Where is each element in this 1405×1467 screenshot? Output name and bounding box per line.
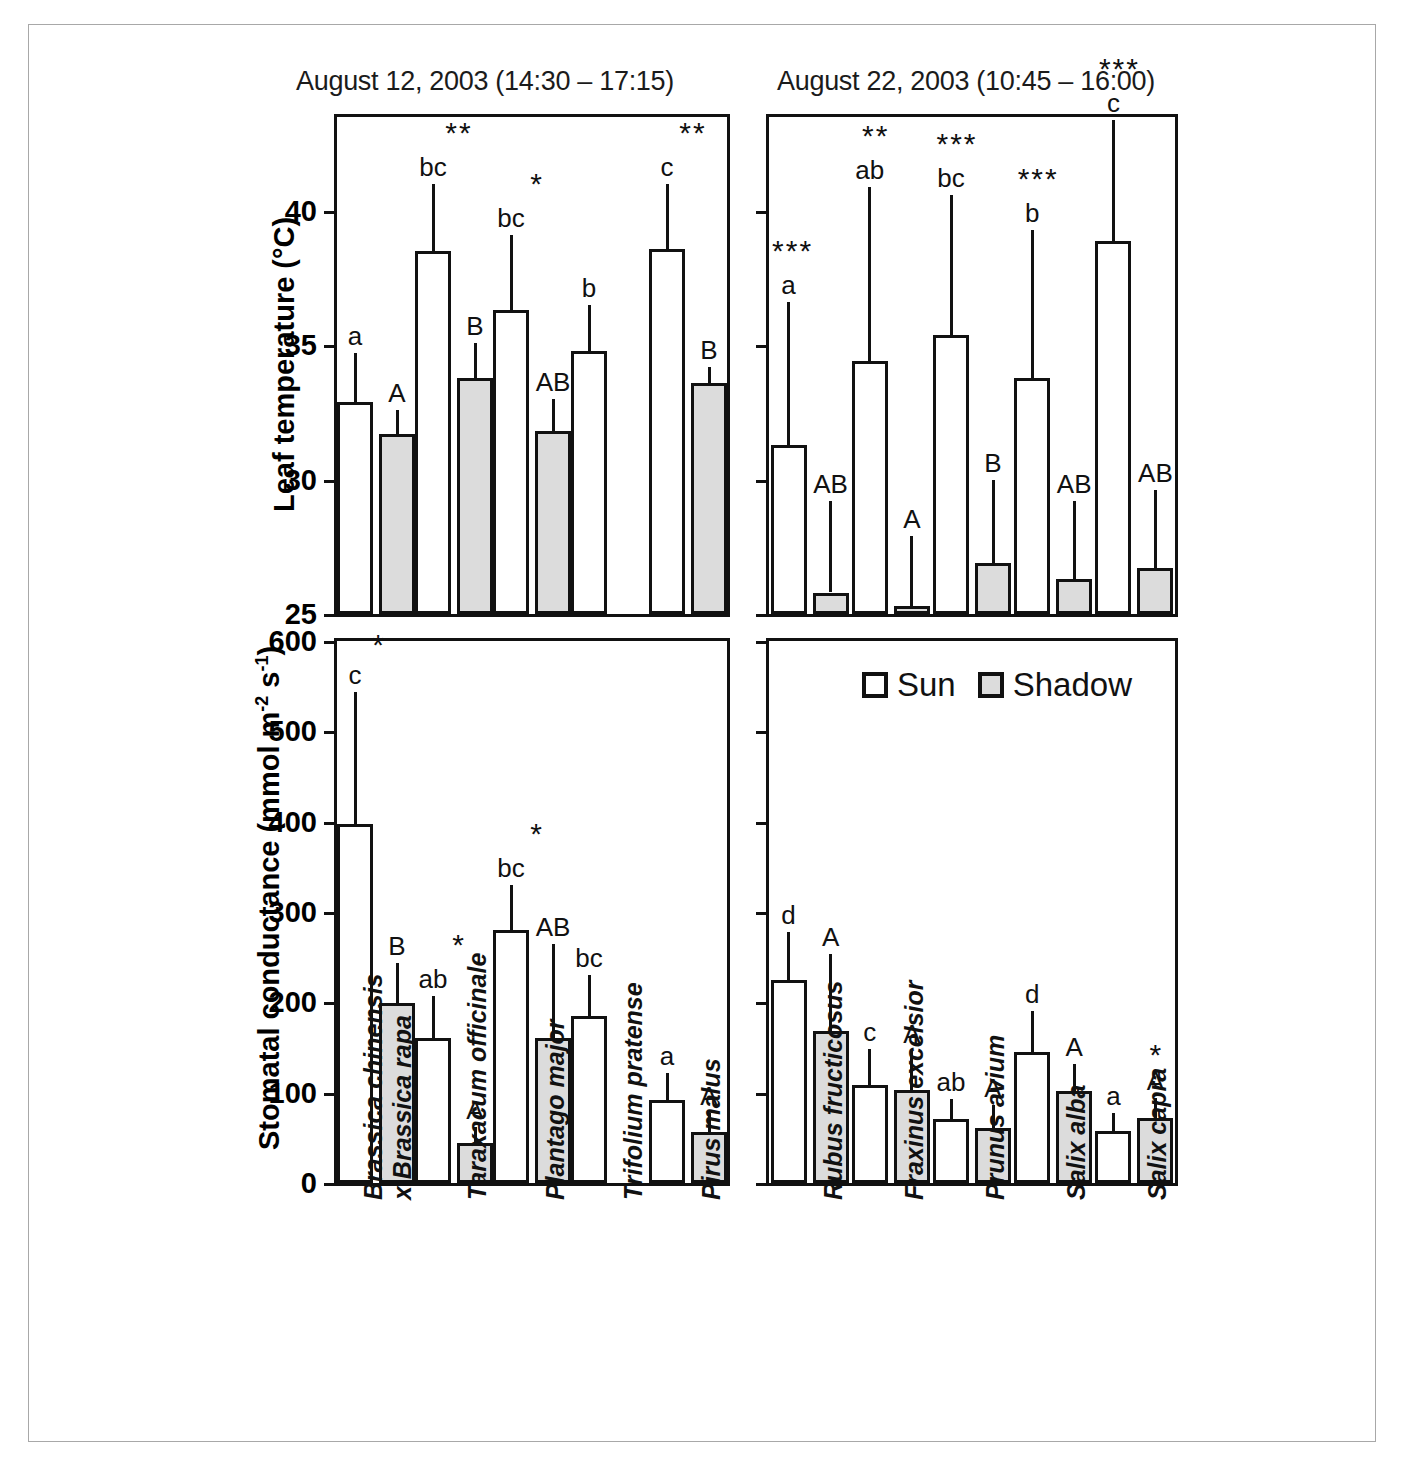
bar-bottom-right-sun-4: [1095, 1131, 1131, 1183]
error-bar-bottom-right-sun-1: [868, 1049, 871, 1085]
error-bar-top-right-shadow-0: [829, 501, 832, 592]
group-letter-bottom-left-sun-3: bc: [575, 943, 602, 974]
y-tick-bottom-left-600: [324, 641, 337, 644]
y-tick-bottom-right-0: [756, 1183, 769, 1186]
group-letter-bottom-right-sun-2: ab: [937, 1067, 966, 1098]
y-tick-bottom-left-300: [324, 912, 337, 915]
group-letter-top-left-sun-2: bc: [497, 203, 524, 234]
bar-top-left-sun-2: [493, 310, 529, 614]
species-label-fraxinus-excelsior: Fraxinus excelsior: [900, 980, 929, 1200]
bar-bottom-left-sun-1: [415, 1038, 451, 1183]
bar-top-left-sun-4: [649, 249, 685, 614]
species-label-rubus-fructicosus: Rubus fructicosus: [819, 981, 848, 1200]
species-label-pirus-malus: Pirus malus: [697, 1058, 726, 1200]
y-tick-label-bottom-left-500: 500: [269, 715, 317, 748]
panel-title-top-left: August 12, 2003 (14:30 – 17:15): [296, 66, 674, 97]
bar-top-right-shadow-4: [1137, 568, 1173, 614]
bar-top-right-shadow-0: [813, 593, 849, 614]
bar-top-left-shadow-0: [379, 434, 415, 614]
y-tick-bottom-right-300: [756, 912, 769, 915]
y-tick-top-right-35: [756, 345, 769, 348]
group-letter-bottom-left-sun-1: ab: [419, 964, 448, 995]
group-letter-top-right-sun-4: c: [1107, 88, 1120, 119]
significance-marker-top-right-0: ***: [772, 236, 813, 266]
species-label-plantago-major: Plantago major: [541, 1019, 570, 1200]
legend-label-sun: Sun: [897, 666, 956, 704]
error-bar-top-right-shadow-3: [1073, 501, 1076, 579]
y-tick-label-bottom-left-600: 600: [269, 625, 317, 658]
y-tick-bottom-right-100: [756, 1093, 769, 1096]
error-bar-top-right-shadow-2: [992, 480, 995, 563]
y-tick-label-bottom-left-300: 300: [269, 896, 317, 929]
group-letter-bottom-right-sun-0: d: [781, 900, 795, 931]
species-label-taraxacum-officinale: Taraxacum officinale: [463, 953, 492, 1200]
group-letter-bottom-right-shadow-3: A: [1066, 1032, 1083, 1063]
bar-top-right-shadow-3: [1056, 579, 1092, 614]
error-bar-top-left-shadow-1: [474, 343, 477, 378]
group-letter-top-right-sun-2: bc: [937, 163, 964, 194]
group-letter-top-right-shadow-2: B: [984, 448, 1001, 479]
species-label-line2: x Brassica rapa: [388, 973, 417, 1200]
species-label-brassica-chinensis: Brassica chinensisx Brassica rapa: [359, 973, 417, 1200]
plot-area-top-left: 25303540aAbcB**bcAB*bn. d.cB**: [334, 114, 730, 617]
error-bar-bottom-right-sun-3: [1031, 1011, 1034, 1052]
error-bar-top-left-sun-1: [432, 184, 435, 251]
group-letter-bottom-left-sun-4: a: [660, 1041, 674, 1072]
group-letter-bottom-left-sun-0: c: [349, 660, 362, 691]
group-letter-top-right-sun-1: ab: [855, 155, 884, 186]
error-bar-bottom-left-sun-0: [354, 692, 357, 825]
significance-marker-bottom-right-4: *: [1150, 1040, 1164, 1070]
significance-marker-bottom-left-0: *: [372, 630, 386, 660]
plot-area-top-right: aAB***abA**bcB***bAB***cAB***: [766, 114, 1178, 617]
group-letter-top-left-shadow-1: B: [466, 311, 483, 342]
y-tick-label-top-left-40: 40: [285, 195, 317, 228]
significance-marker-top-right-4: ***: [1099, 54, 1140, 84]
species-label-trifolium-pratense: Trifolium pratense: [619, 982, 648, 1200]
y-tick-label-bottom-left-400: 400: [269, 805, 317, 838]
bar-bottom-right-sun-0: [771, 980, 807, 1183]
bar-top-right-sun-2: [933, 335, 969, 614]
bar-top-left-sun-0: [337, 402, 373, 614]
error-bar-top-left-shadow-0: [396, 410, 399, 434]
error-bar-top-right-sun-1: [868, 187, 871, 362]
significance-marker-top-left-2: *: [530, 169, 544, 199]
y-tick-label-bottom-left-200: 200: [269, 986, 317, 1019]
y-tick-bottom-right-500: [756, 731, 769, 734]
species-label-salix-alba: Salix alba: [1062, 1085, 1091, 1200]
group-letter-top-left-shadow-4: B: [700, 335, 717, 366]
group-letter-top-left-sun-4: c: [661, 152, 674, 183]
figure-root: August 12, 2003 (14:30 – 17:15) August 2…: [0, 0, 1405, 1467]
bar-bottom-right-sun-1: [852, 1085, 888, 1183]
significance-marker-bottom-left-2: *: [530, 819, 544, 849]
bar-bottom-right-sun-2: [933, 1119, 969, 1183]
group-letter-top-left-sun-1: bc: [419, 152, 446, 183]
bar-top-right-sun-3: [1014, 378, 1050, 614]
legend-swatch-sun-icon: [862, 672, 888, 698]
bar-top-right-shadow-1: [894, 606, 930, 614]
bar-top-left-shadow-1: [457, 378, 493, 614]
y-tick-bottom-left-0: [324, 1183, 337, 1186]
group-letter-top-right-shadow-1: A: [903, 504, 920, 535]
bar-top-right-sun-1: [852, 361, 888, 614]
group-letter-bottom-right-sun-4: a: [1106, 1081, 1120, 1112]
species-label-line1: Brassica chinensis: [359, 973, 387, 1200]
y-tick-top-left-35: [324, 345, 337, 348]
group-letter-top-left-shadow-2: AB: [536, 367, 571, 398]
y-tick-top-left-30: [324, 480, 337, 483]
group-letter-top-left-sun-3: b: [582, 273, 596, 304]
group-letter-bottom-left-sun-2: bc: [497, 853, 524, 884]
error-bar-bottom-right-sun-4: [1112, 1113, 1115, 1131]
significance-marker-top-right-1: **: [862, 121, 889, 151]
bar-top-left-sun-1: [415, 251, 451, 614]
legend: SunShadow: [862, 666, 1132, 704]
group-letter-bottom-right-sun-1: c: [863, 1017, 876, 1048]
significance-marker-top-left-1: **: [445, 118, 472, 148]
y-tick-top-right-40: [756, 211, 769, 214]
group-letter-top-left-shadow-0: A: [388, 378, 405, 409]
bar-top-left-shadow-4: [691, 383, 727, 614]
group-letter-bottom-left-shadow-2: AB: [536, 912, 571, 943]
bar-top-left-sun-3: [571, 351, 607, 614]
y-tick-label-bottom-left-0: 0: [301, 1167, 317, 1200]
group-letter-bottom-left-shadow-0: B: [388, 931, 405, 962]
error-bar-top-right-sun-4: [1112, 120, 1115, 241]
